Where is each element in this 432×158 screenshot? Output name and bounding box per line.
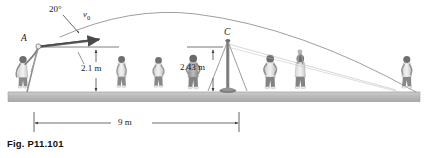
person-icon: [402, 56, 412, 88]
launch-angle-label: 20°: [49, 5, 62, 14]
point-c-label: C: [224, 28, 230, 38]
initial-velocity-label: v0: [83, 10, 90, 21]
dimension-arrow-icon: [34, 112, 239, 132]
height-a-dimension-label: 2.1 m: [81, 64, 102, 73]
velocity-subscript: 0: [87, 14, 90, 21]
height-c-dimension-label: 2.43 m: [180, 63, 205, 72]
point-a-label: A: [21, 34, 27, 44]
velocity-arrow-icon: [40, 39, 100, 47]
horizontal-distance-label: 9 m: [118, 118, 132, 127]
launcher-icon: [27, 44, 41, 92]
person-icon: [16, 48, 38, 88]
guy-wire-icon: [228, 44, 399, 92]
figure-caption: Fig. P11.101: [7, 139, 64, 149]
trajectory-curve-icon: [60, 12, 416, 92]
angle-leader-icon: [63, 15, 79, 33]
figure-container: 20° v0 A C 2.1 m 2.43 m 9 m Fig. P11.101: [0, 0, 432, 158]
person-icon: [153, 57, 164, 87]
person-icon: [264, 55, 276, 89]
catcher-person-icon: [295, 50, 305, 89]
ground-strip-icon: [8, 92, 420, 102]
person-icon: [117, 56, 126, 87]
figure-canvas: [0, 0, 432, 158]
